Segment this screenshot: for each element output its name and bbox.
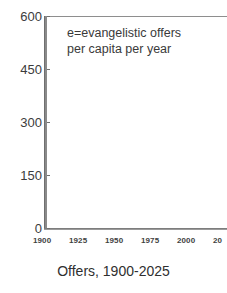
- plot-annotation: e=evangelistic offers per capita per yea…: [67, 25, 181, 57]
- y-tick-label-150: 150: [2, 169, 42, 182]
- y-tick-mark: [47, 228, 50, 229]
- chart-title: Offers, 1900-2025: [0, 263, 227, 280]
- y-tick-mark: [47, 69, 50, 70]
- x-tick-label-1900: 1900: [33, 236, 51, 245]
- plot-top-spine: [44, 16, 227, 17]
- y-tick-label-300: 300: [2, 116, 42, 129]
- x-tick-label-1975: 1975: [141, 236, 159, 245]
- x-tick-label-2000: 2000: [177, 236, 195, 245]
- x-axis-spine: [44, 228, 227, 230]
- x-tick-label-1950: 1950: [105, 236, 123, 245]
- chart-figure: 600 450 300 150 0 1900 1925 1950 1975 20…: [0, 0, 227, 293]
- y-tick-mark: [47, 16, 50, 17]
- x-tick-label-1925: 1925: [69, 236, 87, 245]
- annotation-line-2: per capita per year: [67, 41, 181, 57]
- y-tick-label-450: 450: [2, 63, 42, 76]
- y-tick-label-0: 0: [2, 222, 42, 235]
- y-tick-mark: [47, 175, 50, 176]
- y-tick-label-600: 600: [2, 10, 42, 23]
- y-axis-spine: [44, 16, 47, 230]
- x-tick-label-2025: 20: [213, 236, 222, 245]
- annotation-line-1: e=evangelistic offers: [67, 25, 181, 41]
- y-tick-mark: [47, 122, 50, 123]
